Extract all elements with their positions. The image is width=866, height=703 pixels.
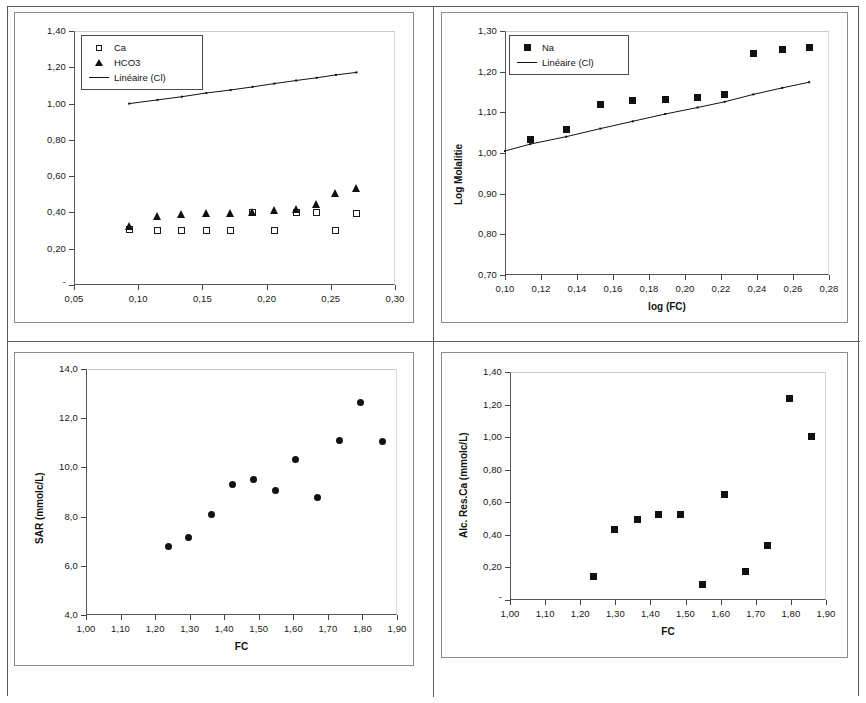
data-point — [332, 227, 339, 234]
data-point — [154, 227, 161, 234]
data-point — [203, 227, 210, 234]
data-point — [590, 573, 597, 580]
trendline-node — [752, 93, 754, 95]
triangle-filled-glyph — [95, 59, 103, 66]
legend-item[interactable]: Linéaire (Cl) — [88, 70, 195, 85]
chart-legend: CaHCO3Linéaire (Cl) — [81, 35, 203, 90]
data-point — [227, 227, 234, 234]
line-glyph — [517, 62, 537, 63]
legend-item-label: Na — [542, 42, 554, 53]
figure-page: 0,200,400,600,801,001,201,40-0,050,100,1… — [0, 0, 866, 703]
trendline-node — [181, 96, 183, 98]
data-point — [153, 212, 161, 220]
trendline-layer — [15, 353, 413, 665]
data-point — [779, 46, 786, 53]
data-point — [270, 206, 278, 214]
data-point — [764, 542, 771, 549]
line-icon — [516, 62, 538, 63]
table-row-divider — [8, 341, 860, 342]
data-point — [379, 438, 386, 445]
data-point — [694, 94, 701, 101]
data-point — [677, 511, 684, 518]
data-point — [292, 205, 300, 213]
trendline-node — [252, 86, 254, 88]
data-point — [786, 395, 793, 402]
square-open-icon — [88, 45, 110, 51]
data-point — [178, 227, 185, 234]
data-point — [271, 227, 278, 234]
data-point — [742, 568, 749, 575]
data-point — [272, 487, 279, 494]
trendline-node — [316, 77, 318, 79]
data-point — [611, 526, 618, 533]
trendline-node — [157, 99, 159, 101]
data-point — [312, 200, 320, 208]
data-point — [226, 209, 234, 217]
trendline-node — [632, 120, 634, 122]
data-point — [353, 210, 360, 217]
chart-panel-4: 0,200,400,600,801,001,201,40-1,001,101,2… — [441, 352, 848, 658]
triangle-filled-icon — [88, 59, 110, 66]
chart-panel-1: 0,200,400,600,801,001,201,40-0,050,100,1… — [14, 12, 414, 323]
data-point — [208, 511, 215, 518]
legend-item[interactable]: HCO3 — [88, 55, 195, 70]
trendline-node — [808, 81, 810, 83]
trendline-node — [230, 89, 232, 91]
data-point — [248, 208, 256, 216]
trendline-node — [664, 113, 666, 115]
square-filled-glyph — [524, 44, 531, 51]
data-point — [629, 97, 636, 104]
square-open-glyph — [96, 45, 102, 51]
data-point — [721, 91, 728, 98]
line-glyph — [89, 77, 109, 78]
legend-item-label: Ca — [114, 42, 126, 53]
data-point — [185, 534, 192, 541]
chart-panel-3: 4,06,08,010,012,014,01,001,101,201,301,4… — [14, 352, 414, 666]
square-filled-icon — [516, 44, 538, 51]
trendline-node — [781, 87, 783, 89]
trendline-node — [295, 80, 297, 82]
data-point — [313, 209, 320, 216]
trendline-node — [273, 83, 275, 85]
table-column-divider — [433, 7, 434, 697]
legend-item[interactable]: Linéaire (Cl) — [516, 55, 621, 70]
trendline-node — [356, 71, 358, 73]
trendline-node — [128, 103, 130, 105]
data-point — [699, 581, 706, 588]
data-point — [352, 184, 360, 192]
data-point — [314, 494, 321, 501]
legend-item-label: Linéaire (Cl) — [542, 57, 594, 68]
trendline-layer — [442, 13, 847, 322]
data-point — [527, 136, 534, 143]
chart-legend: NaLinéaire (Cl) — [509, 35, 629, 75]
trendline-node — [697, 107, 699, 109]
data-point — [292, 456, 299, 463]
data-point — [750, 50, 757, 57]
trendline-node — [724, 101, 726, 103]
legend-item-label: Linéaire (Cl) — [114, 72, 166, 83]
data-point — [634, 516, 641, 523]
trendline-node — [504, 150, 506, 152]
data-point — [202, 209, 210, 217]
data-point — [331, 189, 339, 197]
data-point — [177, 210, 185, 218]
legend-item[interactable]: Ca — [88, 40, 195, 55]
data-point — [563, 126, 570, 133]
trendline-node — [335, 74, 337, 76]
trendline-node — [565, 136, 567, 138]
data-point — [336, 437, 343, 444]
data-point — [806, 44, 813, 51]
legend-item[interactable]: Na — [516, 40, 621, 55]
data-point — [597, 101, 604, 108]
trendline-node — [529, 143, 531, 145]
data-point — [808, 433, 815, 440]
trendline-node — [599, 128, 601, 130]
data-point — [662, 96, 669, 103]
trendline-layer — [15, 13, 413, 322]
data-point — [125, 222, 133, 230]
trendline-node — [205, 92, 207, 94]
data-point — [721, 491, 728, 498]
line-icon — [88, 77, 110, 78]
legend-item-label: HCO3 — [114, 57, 140, 68]
trendline-lin-aire-cl- — [505, 82, 809, 151]
